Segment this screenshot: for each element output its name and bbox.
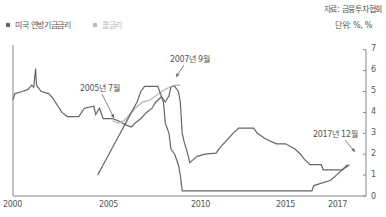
x-tick-2010: 2010 bbox=[191, 200, 210, 209]
annotation-2017-dec: 2017년 12월 bbox=[313, 128, 357, 139]
y-tick-4: 4 bbox=[371, 107, 376, 116]
x-tick-2000: 2000 bbox=[3, 200, 22, 209]
annotation-arrow-0 bbox=[102, 94, 114, 118]
x-tick-2017: 2017 bbox=[328, 200, 347, 209]
y-tick-7: 7 bbox=[371, 44, 376, 53]
x-tick-2005: 2005 bbox=[99, 200, 118, 209]
line-chart bbox=[0, 0, 386, 217]
annotation-2007-sep: 2007년 9월 bbox=[170, 53, 210, 64]
y-tick-2: 2 bbox=[371, 149, 376, 158]
series-lines bbox=[13, 69, 350, 191]
x-tick-2015: 2015 bbox=[276, 200, 295, 209]
axes bbox=[13, 45, 366, 196]
annotation-2005-jul: 2005년 7월 bbox=[80, 82, 120, 93]
series-line-2 bbox=[98, 86, 350, 191]
series-line-0 bbox=[13, 69, 348, 170]
y-tick-3: 3 bbox=[371, 128, 376, 137]
y-tick-5: 5 bbox=[371, 86, 376, 95]
y-tick-6: 6 bbox=[371, 65, 376, 74]
y-tick-1: 1 bbox=[371, 170, 376, 179]
arrow-head-icon bbox=[176, 73, 179, 77]
y-tick-0: 0 bbox=[371, 192, 376, 201]
